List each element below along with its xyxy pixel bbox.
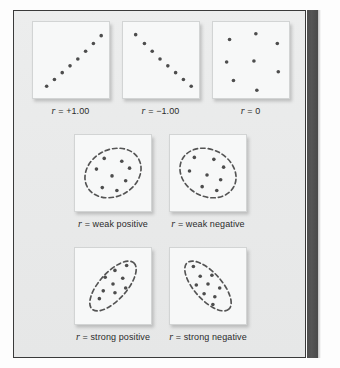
data-point (52, 78, 56, 82)
data-point (212, 158, 216, 162)
correlation-figure: r = +1.00 r = −1.00 r = 0 (0, 0, 340, 368)
data-point (124, 286, 128, 290)
scatter-plot-box (212, 21, 290, 99)
data-point (44, 85, 48, 89)
panel-perfect-negative: r = −1.00 (122, 21, 200, 116)
data-point (215, 189, 219, 193)
panel-row-top: r = +1.00 r = −1.00 r = 0 (14, 21, 307, 116)
data-point (255, 88, 259, 92)
scatter-plot-box (32, 21, 110, 99)
caption-text: = −1.00 (146, 106, 180, 116)
data-point (198, 274, 202, 278)
scatter-plot-box (169, 134, 247, 212)
data-point (275, 42, 279, 46)
data-point (195, 283, 199, 287)
data-point (60, 71, 64, 75)
data-point (133, 33, 137, 37)
data-point (102, 157, 106, 161)
ellipse-outline (177, 254, 239, 319)
data-point (218, 286, 222, 290)
data-point (95, 167, 99, 171)
scatter-svg (33, 22, 109, 98)
data-point (125, 264, 129, 268)
scatter-plot-box (122, 21, 200, 99)
data-point (173, 71, 177, 75)
scatter-svg (170, 248, 246, 324)
data-point (219, 178, 223, 182)
data-point (115, 189, 119, 193)
scatter-plot-box (74, 247, 152, 325)
scatter-svg (213, 22, 289, 98)
data-point (166, 64, 170, 68)
data-point (206, 282, 210, 286)
panel-perfect-positive: r = +1.00 (32, 21, 110, 116)
panel-caption: r = weak positive (78, 219, 148, 229)
data-point (210, 273, 214, 277)
panel-weak-negative: r = weak negative (169, 134, 247, 229)
scatter-plot-box (74, 134, 152, 212)
scatter-plot-box (169, 247, 247, 325)
data-point (181, 78, 185, 82)
scatter-svg (75, 135, 151, 211)
page-spine-bar (307, 10, 318, 358)
panel-caption: r = +1.00 (52, 106, 90, 116)
data-point (142, 42, 146, 46)
data-point (200, 185, 204, 189)
data-point (188, 169, 192, 173)
data-point (252, 59, 256, 63)
data-point (91, 42, 95, 46)
data-point (113, 291, 117, 295)
data-point (120, 160, 124, 164)
scatter-svg (123, 22, 199, 98)
panel-caption: r = strong negative (169, 332, 247, 342)
caption-text: = 0 (245, 106, 261, 116)
ellipse-outline (82, 254, 144, 319)
caption-text: = weak positive (82, 219, 148, 229)
data-point (158, 57, 162, 61)
data-point (227, 38, 231, 42)
data-point (99, 34, 103, 38)
panel-caption: r = −1.00 (142, 106, 180, 116)
data-point (222, 165, 226, 169)
ellipse-outline (76, 139, 150, 208)
page-frame: r = +1.00 r = −1.00 r = 0 (13, 10, 306, 358)
data-point (83, 49, 87, 53)
data-point (103, 275, 107, 279)
caption-text: = strong positive (80, 332, 150, 342)
data-point (192, 265, 196, 269)
panel-weak-positive: r = weak positive (74, 134, 152, 229)
caption-text: = strong negative (173, 332, 247, 342)
panel-row-middle: r = weak positive r = weak negative (14, 134, 307, 229)
ellipse-outline (171, 139, 245, 208)
data-point (100, 186, 104, 190)
panel-strong-positive: r = strong positive (74, 247, 152, 342)
data-point (121, 276, 125, 280)
data-point (189, 85, 193, 89)
data-point (193, 156, 197, 160)
scatter-svg (75, 248, 151, 324)
data-point (211, 303, 215, 307)
data-point (224, 60, 228, 64)
panel-caption: r = strong positive (76, 332, 150, 342)
data-point (111, 282, 115, 286)
panel-caption: r = weak negative (171, 219, 244, 229)
data-point (150, 49, 154, 53)
data-point (128, 166, 132, 170)
panel-strong-negative: r = strong negative (169, 247, 247, 342)
data-point (98, 297, 102, 301)
data-point (254, 32, 258, 36)
data-point (68, 64, 72, 68)
data-point (231, 79, 235, 83)
caption-text: = +1.00 (56, 106, 90, 116)
data-point (124, 179, 128, 183)
data-point (276, 70, 280, 74)
scatter-svg (170, 135, 246, 211)
data-point (202, 292, 206, 296)
panel-grid: r = +1.00 r = −1.00 r = 0 (14, 11, 307, 359)
caption-text: = weak negative (175, 219, 244, 229)
data-point (213, 295, 217, 299)
panel-zero: r = 0 (212, 21, 290, 116)
data-point (101, 289, 105, 293)
panel-row-bottom: r = strong positive r = strong negative (14, 247, 307, 342)
data-point (76, 57, 80, 61)
